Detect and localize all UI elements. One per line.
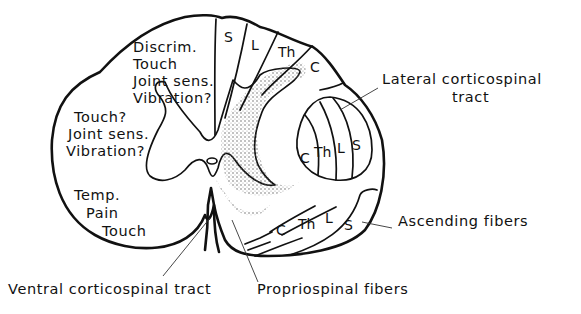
dorsal-seg-c: C	[310, 59, 320, 75]
lateral-corticospinal-label: Lateral corticospinal tract	[382, 71, 547, 105]
lcst-leader	[340, 88, 378, 110]
ascending-line-2	[248, 242, 270, 250]
ventral-corticospinal-label: Ventral corticospinal tract	[8, 281, 211, 297]
dorsal-seg-th: Th	[277, 44, 295, 60]
lcst-divider-2	[320, 102, 336, 180]
lcst-seg-c: C	[300, 150, 310, 166]
spinal-cord-diagram: Discrim. Touch Joint sens. Vibration? S …	[0, 0, 581, 314]
ascending-fibers-label: Ascending fibers	[398, 213, 528, 229]
central-canal	[207, 158, 217, 164]
lateral-boundary	[320, 83, 343, 90]
dorsal-seg-l: L	[251, 37, 259, 53]
ventral-cst-leader	[163, 218, 210, 276]
asc-seg-c: C	[276, 222, 286, 238]
asc-seg-l: L	[325, 210, 333, 226]
asc-seg-s: S	[344, 217, 353, 233]
dorsal-label: Discrim. Touch Joint sens. Vibration?	[132, 39, 219, 106]
lcst-seg-l: L	[337, 140, 345, 156]
propriospinal-label: Propriospinal fibers	[257, 281, 408, 297]
lcst-seg-s: S	[352, 137, 361, 153]
lcst-seg-th: Th	[313, 144, 331, 160]
lateral-left-label: Touch? Joint sens. Vibration?	[66, 109, 154, 159]
dorsal-seg-s: S	[224, 29, 233, 45]
asc-seg-th: Th	[297, 216, 315, 232]
anterolateral-label: Temp. Pain Touch	[73, 187, 147, 239]
